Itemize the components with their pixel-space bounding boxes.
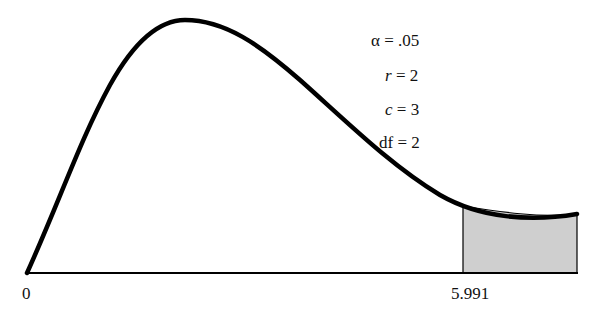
r-symbol: r: [385, 66, 392, 85]
c-annotation: c = 3: [385, 101, 419, 118]
x-tick-origin: 0: [22, 285, 31, 302]
df-annotation: df = 2: [379, 134, 420, 151]
c-op: =: [393, 100, 411, 119]
df-value: 2: [411, 133, 420, 152]
df-op: =: [393, 133, 411, 152]
r-op: =: [392, 66, 410, 85]
alpha-op: =: [380, 31, 398, 50]
alpha-value: .05: [398, 31, 419, 50]
c-value: 3: [411, 100, 420, 119]
r-annotation: r = 2: [385, 67, 418, 84]
chi-square-plot: [0, 0, 604, 318]
alpha-symbol: α: [371, 31, 380, 50]
r-value: 2: [410, 66, 419, 85]
df-symbol: df: [379, 133, 393, 152]
x-tick-critical: 5.991: [451, 285, 489, 302]
c-symbol: c: [385, 100, 393, 119]
alpha-annotation: α = .05: [371, 32, 419, 49]
